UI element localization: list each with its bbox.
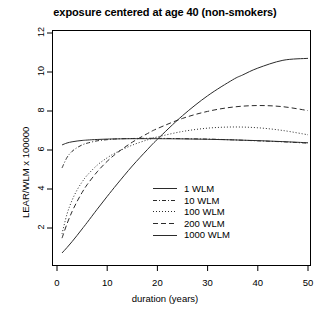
- x-tick-label-10: 10: [92, 277, 122, 288]
- legend-label: 1 WLM: [184, 183, 214, 195]
- legend-line-icon: [152, 183, 178, 194]
- legend-label: 100 WLM: [184, 206, 225, 218]
- y-tick-label-8: 8: [36, 102, 46, 118]
- legend-item-1000-wlm: 1000 WLM: [152, 229, 230, 241]
- legend-item-10-wlm: 10 WLM: [152, 195, 230, 207]
- y-tick-label-4: 4: [36, 180, 46, 196]
- legend-label: 1000 WLM: [184, 229, 230, 241]
- legend-line-icon: [152, 206, 178, 217]
- legend-item-100-wlm: 100 WLM: [152, 206, 230, 218]
- plot-svg: [0, 0, 330, 317]
- x-tick-label-20: 20: [142, 277, 172, 288]
- legend-item-200-wlm: 200 WLM: [152, 218, 230, 230]
- chart-figure: exposure centered at age 40 (non-smokers…: [0, 0, 330, 317]
- y-tick-label-2: 2: [36, 219, 46, 235]
- series-line-1-wlm: [62, 139, 308, 145]
- y-tick-label-6: 6: [36, 141, 46, 157]
- x-tick-label-0: 0: [42, 277, 72, 288]
- legend-line-icon: [152, 218, 178, 229]
- legend-item-1-wlm: 1 WLM: [152, 183, 230, 195]
- legend: 1 WLM10 WLM100 WLM200 WLM1000 WLM: [152, 183, 230, 241]
- x-tick-label-40: 40: [243, 277, 273, 288]
- legend-line-icon: [152, 195, 178, 206]
- legend-label: 200 WLM: [184, 218, 225, 230]
- legend-line-icon: [152, 230, 178, 241]
- x-tick-label-30: 30: [193, 277, 223, 288]
- y-tick-label-10: 10: [36, 63, 46, 79]
- y-tick-label-12: 12: [36, 24, 46, 40]
- y-axis-label: LEAR/WLM x 100000: [20, 127, 31, 218]
- x-axis-label: duration (years): [0, 293, 330, 304]
- legend-label: 10 WLM: [184, 195, 219, 207]
- x-tick-label-50: 50: [293, 277, 323, 288]
- series-line-10-wlm: [62, 138, 308, 168]
